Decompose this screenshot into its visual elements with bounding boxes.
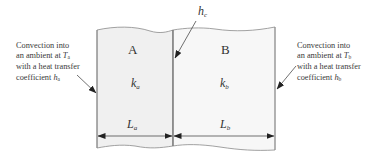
left-note-line-2: an ambient at Ta [16, 51, 80, 62]
layer-a-label: A [128, 42, 137, 58]
left-convection-arrow [77, 75, 96, 93]
conductivity-a-symbol: ka [131, 76, 140, 91]
right-note-line-1: Convection into [297, 41, 361, 51]
left-note-line-3: with a heat transfer [16, 62, 80, 72]
left-note-line-1: Convection into [16, 41, 80, 51]
left-note-line-4: coefficient ha [16, 73, 80, 84]
right-note-line-3: with a heat transfer [297, 62, 361, 72]
conductivity-b-symbol: kb [220, 76, 229, 91]
left-convection-note: Convection into an ambient at Ta with a … [16, 41, 80, 84]
right-convection-note: Convection into an ambient at Tb with a … [297, 41, 361, 84]
contact-coefficient-symbol: hc [198, 4, 207, 19]
right-convection-arrow [277, 66, 296, 89]
length-a-symbol: La [127, 117, 137, 132]
right-note-line-4: coefficient hb [297, 73, 361, 84]
layer-b-label: B [221, 42, 230, 58]
length-b-symbol: Lb [220, 117, 230, 132]
right-note-line-2: an ambient at Tb [297, 51, 361, 62]
